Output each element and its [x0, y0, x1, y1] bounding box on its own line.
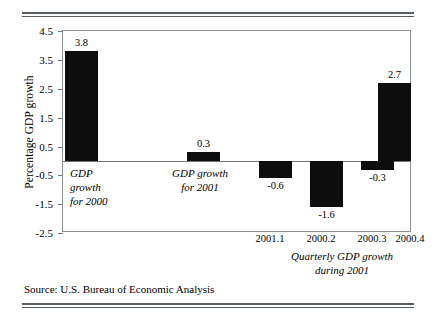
y-tick-label: 2.5 — [23, 84, 53, 95]
bar-value-label: 3.8 — [65, 38, 98, 49]
bar-2001-q1[interactable] — [259, 161, 292, 178]
bar-gdp-2000[interactable] — [65, 51, 98, 161]
y-tick-label: -2.5 — [23, 228, 53, 239]
caption-line: during 2001 — [252, 263, 432, 277]
y-tick-label: 0.5 — [23, 142, 53, 153]
bar-value-label: -0.3 — [361, 173, 394, 184]
x-tick-label-2000-2: 2000.2 — [293, 234, 349, 245]
source-note: Source: U.S. Bureau of Economic Analysis — [24, 283, 214, 295]
caption-line: Quarterly GDP growth — [252, 249, 432, 263]
bar-value-label: -0.6 — [259, 181, 292, 192]
annotation-line: for 2001 — [140, 180, 260, 194]
y-tick-label: 4.5 — [23, 26, 53, 37]
x-axis-caption: Quarterly GDP growth during 2001 — [252, 249, 432, 277]
annotation-gdp-2000: GDP growth for 2000 — [70, 166, 108, 208]
x-tick-label-2000-4: 2000.4 — [382, 234, 434, 245]
y-tick-mark — [58, 60, 63, 61]
bar-2001-q2[interactable] — [310, 161, 343, 207]
y-tick-mark — [58, 89, 63, 90]
y-axis-title: Percentage GDP growth — [23, 47, 35, 217]
y-tick-mark — [58, 233, 63, 234]
bar-2001-q3[interactable] — [361, 161, 394, 170]
x-tick-label-2001-1: 2001.1 — [242, 234, 298, 245]
bar-2001-q4[interactable] — [378, 83, 411, 161]
y-tick-label: -1.5 — [23, 199, 53, 210]
bar-value-label: 2.7 — [378, 70, 411, 81]
divider-line-lower — [22, 16, 414, 17]
plot-area: 4.5 3.5 2.5 1.5 0.5 -0.5 -1.5 -2.5 3.8 0… — [62, 30, 411, 232]
annotation-line: GDP growth — [140, 166, 260, 180]
y-tick-mark — [58, 175, 63, 176]
y-tick-mark — [58, 204, 63, 205]
annotation-line: growth — [70, 180, 108, 194]
bar-gdp-2001[interactable] — [187, 152, 220, 161]
y-tick-mark — [58, 147, 63, 148]
y-tick-label: 3.5 — [23, 55, 53, 66]
bottom-divider — [22, 303, 414, 308]
bar-value-label: 0.3 — [187, 139, 220, 150]
y-tick-label: -0.5 — [23, 170, 53, 181]
annotation-line: GDP — [70, 166, 108, 180]
figure: Percentage GDP growth 4.5 3.5 2.5 1.5 0.… — [0, 0, 434, 320]
y-tick-label: 1.5 — [23, 113, 53, 124]
bar-value-label: -1.6 — [310, 210, 343, 221]
annotation-gdp-2001: GDP growth for 2001 — [140, 166, 260, 194]
zero-baseline — [63, 161, 410, 162]
divider-line-lower — [22, 307, 414, 308]
top-divider — [22, 12, 414, 17]
annotation-line: for 2000 — [70, 194, 108, 208]
y-tick-mark — [58, 118, 63, 119]
y-tick-mark — [58, 31, 63, 32]
